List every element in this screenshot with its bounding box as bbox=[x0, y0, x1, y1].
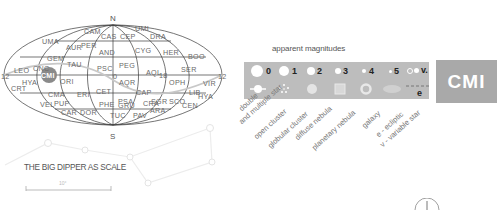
constellation-label: PER bbox=[81, 41, 97, 50]
constellation-label: CNC bbox=[33, 64, 49, 73]
constellation-label: GRU bbox=[118, 101, 135, 110]
scale-title: THE BIG DIPPER AS SCALE bbox=[24, 162, 126, 172]
constellation-label: CMA bbox=[48, 90, 65, 99]
constellation-label: DOR bbox=[80, 108, 97, 117]
variable-star-icon bbox=[407, 68, 413, 74]
constellation-label: SER bbox=[181, 65, 197, 74]
constellation-label: OPH bbox=[169, 78, 185, 87]
south-label: S bbox=[110, 132, 115, 141]
scale-bar bbox=[25, 183, 115, 193]
constellation-label: CYG bbox=[135, 46, 152, 55]
constellation-label: ORI bbox=[60, 77, 74, 86]
ra-label-right: 12 bbox=[218, 72, 227, 81]
north-label: N bbox=[110, 14, 116, 23]
constellation-label: CAM bbox=[84, 27, 101, 36]
mag-2-star-icon bbox=[307, 67, 315, 75]
constellation-label: CRT bbox=[11, 84, 27, 93]
constellation-label: UMI bbox=[135, 24, 149, 33]
ra-label-center: 0 bbox=[113, 72, 117, 81]
constellation-label: HYA bbox=[198, 92, 213, 101]
constellation-label: AND bbox=[99, 48, 115, 57]
magnitudes-title: apparent magnitudes bbox=[272, 44, 345, 53]
constellation-label: AUR bbox=[66, 43, 82, 52]
constellation-badge: CMI bbox=[436, 60, 497, 103]
highlight-label: CMI bbox=[41, 72, 55, 79]
constellation-label: TAU bbox=[67, 60, 82, 69]
constellation-label: CAS bbox=[101, 32, 117, 41]
mag-2-label: 2 bbox=[317, 66, 322, 76]
scale-bar-label: 10° bbox=[59, 180, 67, 186]
constellation-label: UMA bbox=[42, 37, 59, 46]
mag-4-label: 4 bbox=[369, 66, 374, 76]
constellation-label: CEN bbox=[182, 101, 198, 110]
constellation-label: GEM bbox=[47, 54, 64, 63]
mag-4-star-icon bbox=[362, 69, 366, 73]
sky-map: CMI N S 12 0 18 12 UMI CAM CAS CEP DRA U… bbox=[0, 0, 240, 160]
variable-label: v. bbox=[421, 65, 428, 75]
mag-0-label: 0 bbox=[266, 66, 271, 76]
mag-1-star-icon bbox=[279, 66, 289, 76]
constellation-label: CAR bbox=[61, 108, 77, 117]
constellation-label: CET bbox=[96, 87, 112, 96]
constellation-label: AQL bbox=[146, 68, 161, 77]
constellation-label: CAP bbox=[136, 88, 152, 97]
constellation-label: CEP bbox=[120, 32, 136, 41]
mag-3-label: 3 bbox=[343, 66, 348, 76]
constellation-label: DRA bbox=[150, 32, 166, 41]
constellation-label: PHE bbox=[99, 100, 115, 109]
constellation-label: LEO bbox=[14, 66, 29, 75]
constellation-label: VIR bbox=[203, 79, 216, 88]
constellation-label: PSC bbox=[97, 64, 113, 73]
constellation-label: TUC bbox=[110, 111, 126, 120]
constellation-label: ARA bbox=[150, 106, 166, 115]
constellation-label: VEL bbox=[40, 100, 55, 109]
mag-5-star-icon bbox=[389, 70, 392, 73]
constellation-label: HER bbox=[163, 48, 179, 57]
mag-5-label: 5 bbox=[394, 66, 399, 76]
mag-3-star-icon bbox=[335, 68, 341, 74]
diffuse-nebula-icon bbox=[335, 84, 345, 94]
mag-0-star-icon bbox=[251, 65, 263, 77]
ra-label-left: 12 bbox=[1, 72, 10, 81]
constellation-label: PAV bbox=[133, 111, 147, 120]
mag-1-label: 1 bbox=[292, 66, 297, 76]
galaxy-icon bbox=[383, 85, 401, 93]
constellation-label: PEG bbox=[119, 61, 135, 70]
constellation-label: AQR bbox=[119, 78, 135, 87]
compass-icon bbox=[412, 198, 442, 210]
constellation-label: PUP bbox=[54, 99, 70, 108]
ecliptic-symbol: e bbox=[417, 88, 422, 98]
globular-cluster-icon bbox=[307, 84, 317, 94]
variable-star-filled-icon bbox=[414, 68, 419, 73]
constellation-label: ERI bbox=[77, 90, 90, 99]
constellation-label: BOO bbox=[188, 52, 205, 61]
planetary-nebula-icon bbox=[362, 85, 371, 94]
